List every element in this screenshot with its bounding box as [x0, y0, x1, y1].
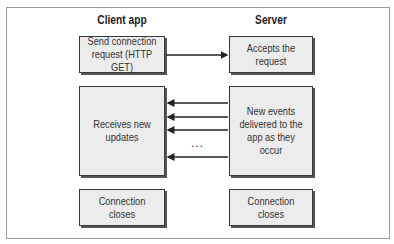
- arrows: [0, 0, 394, 244]
- ellipsis: ...: [191, 136, 204, 150]
